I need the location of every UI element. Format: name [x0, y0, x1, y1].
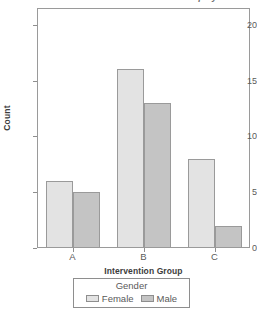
- bar-a-male: [73, 192, 100, 248]
- bar-c-male: [215, 226, 242, 248]
- y-axis-title: Count: [2, 98, 12, 138]
- y-tick-mark: [33, 248, 37, 249]
- x-tick-label-c: C: [200, 252, 230, 262]
- y-tick-label: 20: [231, 20, 257, 29]
- legend-entries: FemaleMale: [74, 294, 189, 304]
- x-axis-title: Intervention Group: [37, 266, 250, 276]
- legend-item-male: Male: [141, 294, 178, 304]
- y-tick-mark: [33, 192, 37, 193]
- chart-title: Intervention Group by Gender: [0, 0, 257, 2]
- y-tick-label: 15: [231, 76, 257, 85]
- y-tick-mark: [33, 25, 37, 26]
- legend: Gender FemaleMale: [73, 278, 190, 308]
- legend-swatch-female: [86, 295, 99, 302]
- legend-swatch-male: [141, 295, 154, 302]
- bar-chart: Intervention Group by Gender Count 05101…: [0, 0, 257, 311]
- y-tick-mark: [33, 136, 37, 137]
- x-tick-label-a: A: [58, 252, 88, 262]
- bar-b-female: [117, 69, 144, 248]
- y-tick-mark: [33, 81, 37, 82]
- legend-label: Male: [157, 294, 178, 304]
- x-tick-label-b: B: [129, 252, 159, 262]
- y-tick-label: 10: [231, 132, 257, 141]
- bar-b-male: [144, 103, 171, 248]
- legend-label: Female: [102, 294, 134, 304]
- legend-item-female: Female: [86, 294, 134, 304]
- bar-c-female: [188, 159, 215, 248]
- y-tick-label: 5: [231, 188, 257, 197]
- bar-a-female: [46, 181, 73, 248]
- legend-title: Gender: [74, 280, 189, 291]
